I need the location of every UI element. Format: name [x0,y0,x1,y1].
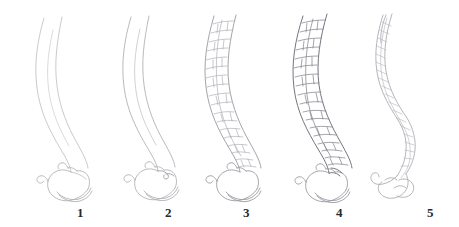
stage-label-5: 5 [427,206,434,219]
stage-3-drawing [205,15,261,202]
stage-5-drawing [371,14,415,198]
stage-2-base-hook [124,162,179,201]
drawing-canvas: .ln { fill:none; stroke-linecap:round; s… [0,0,459,227]
figure-plate: .ln { fill:none; stroke-linecap:round; s… [0,0,459,227]
stage-label-3: 3 [243,206,250,219]
stage-3-scales [206,20,256,167]
stage-label-2: 2 [165,206,172,219]
stage-4-drawing [293,14,352,203]
stage-1-drawing [36,17,92,202]
stage-4-base-hook [295,164,350,203]
stage-1-base-hook [37,163,92,202]
stage-label-1: 1 [77,206,84,219]
stage-label-4: 4 [336,206,343,219]
stage-2-drawing [123,16,179,201]
stage-5-base-hook [371,173,414,199]
stage-3-base-hook [206,163,261,202]
